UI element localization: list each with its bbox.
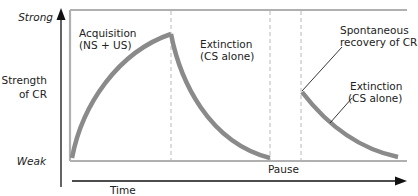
recovery-label-line2: recovery of CR	[340, 36, 417, 48]
acquisition-label-line1: Acquisition	[79, 27, 137, 39]
y-axis-label-line1: Strength	[0, 74, 47, 86]
extinction1-label-line2: (CS alone)	[200, 50, 254, 62]
extinction2-label-line1: Extinction	[350, 80, 402, 92]
recovery-pointer	[302, 47, 342, 91]
pause-label: Pause	[268, 163, 299, 175]
recovery-label-line1: Spontaneous	[340, 24, 409, 36]
x-axis-label: Time	[110, 184, 136, 196]
extinction1-label-line1: Extinction	[200, 38, 252, 50]
annotation-pointers	[302, 47, 352, 123]
acquisition-label-line2: (NS + US)	[79, 39, 132, 51]
phase-dividers	[171, 11, 301, 160]
y-axis-arrowhead-icon	[57, 8, 66, 20]
y-axis	[57, 8, 66, 187]
acquisition-curve	[72, 34, 171, 158]
y-axis-label-line2: of CR	[0, 88, 47, 100]
x-axis-arrowhead-icon	[395, 177, 407, 186]
y-top-label: Strong	[2, 11, 53, 23]
extinction2-label-line2: (CS alone)	[348, 92, 402, 104]
y-bottom-label: Weak	[2, 155, 46, 167]
